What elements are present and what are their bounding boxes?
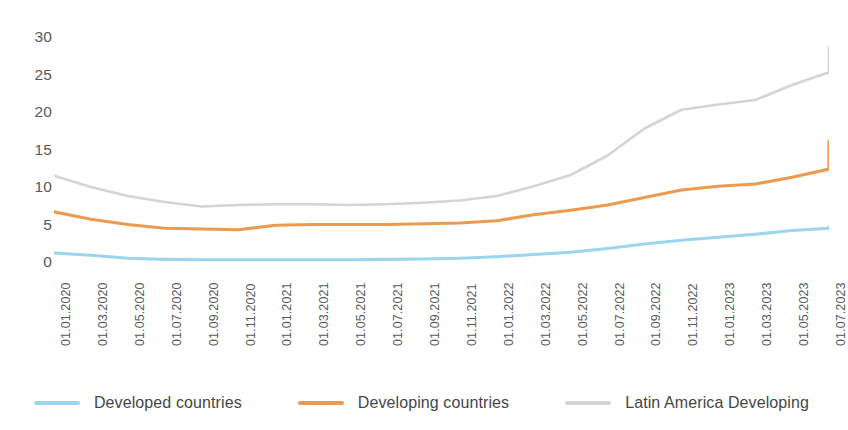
series-line (54, 48, 829, 207)
x-axis-tick: 01.01.2020 (59, 282, 73, 346)
legend-swatch-icon (298, 401, 344, 405)
x-axis-tick: 01.07.2021 (391, 282, 405, 346)
y-axis-tick: 30 (18, 29, 52, 45)
legend-swatch-icon (34, 401, 80, 405)
y-axis-tick: 15 (18, 142, 52, 158)
x-axis-tick: 01.09.2022 (649, 282, 663, 346)
legend-item[interactable]: Developed countries (34, 394, 242, 412)
y-axis-tick: 25 (18, 67, 52, 83)
y-axis-tick: 5 (18, 217, 52, 233)
x-axis-tick: 01.05.2020 (133, 282, 147, 346)
x-axis-tick: 01.09.2020 (207, 282, 221, 346)
x-axis-tick: 01.07.2020 (170, 282, 184, 346)
series-line (54, 141, 829, 230)
x-axis-tick: 01.03.2021 (317, 282, 331, 346)
legend-swatch-icon (565, 401, 611, 405)
x-axis-tick: 01.05.2021 (354, 282, 368, 346)
x-axis-tick: 01.01.2022 (502, 282, 516, 346)
legend-label: Developed countries (94, 394, 242, 412)
legend-item[interactable]: Latin America Developing (565, 394, 809, 412)
series-line (54, 227, 829, 260)
x-axis: 01.01.202001.03.202001.05.202001.07.2020… (54, 272, 829, 372)
x-axis-tick: 01.05.2022 (576, 282, 590, 346)
x-axis-tick: 01.05.2023 (797, 282, 811, 346)
plot-area (54, 30, 829, 270)
chart-legend: Developed countriesDeveloping countriesL… (0, 388, 843, 418)
legend-item[interactable]: Developing countries (298, 394, 509, 412)
series-canvas (54, 30, 829, 270)
y-axis-tick: 20 (18, 104, 52, 120)
x-axis-tick: 01.11.2022 (686, 283, 700, 346)
x-axis-tick: 01.03.2020 (96, 282, 110, 346)
x-axis-tick: 01.11.2020 (244, 283, 258, 346)
legend-label: Latin America Developing (625, 394, 809, 412)
x-axis-tick: 01.03.2022 (539, 282, 553, 346)
x-axis-tick: 01.01.2023 (723, 282, 737, 346)
x-axis-tick: 01.03.2023 (760, 282, 774, 346)
x-axis-tick: 01.07.2023 (834, 282, 848, 346)
x-axis-tick: 01.01.2021 (280, 282, 294, 346)
y-axis: 302520151050 (12, 0, 52, 430)
y-axis-tick: 0 (18, 254, 52, 270)
y-axis-tick: 10 (18, 179, 52, 195)
x-axis-tick: 01.09.2021 (428, 282, 442, 346)
x-axis-tick: 01.11.2021 (465, 283, 479, 346)
legend-label: Developing countries (358, 394, 509, 412)
x-axis-tick: 01.07.2022 (613, 282, 627, 346)
